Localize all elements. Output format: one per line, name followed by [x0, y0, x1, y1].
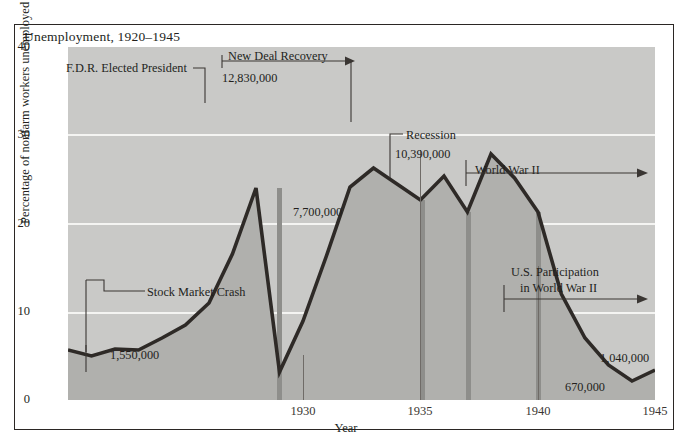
x-tick-1935: 1935: [408, 404, 433, 419]
x-tickmark-1935: [420, 150, 421, 400]
figure-title: Unemployment, 1920–1945: [24, 29, 180, 45]
annotation-new-deal-recovery: New Deal Recovery: [228, 49, 328, 64]
annotation-stock-market-crash: Stock Market Crash: [147, 285, 245, 300]
unemployment-figure: Unemployment, 1920–1945 Percentage of no…: [0, 0, 692, 446]
x-tick-1940: 1940: [526, 404, 551, 419]
value-label-12830000: 12,830,000: [222, 71, 277, 86]
y-tick-20: 20: [0, 216, 30, 231]
value-label-10390000: 10,390,000: [395, 147, 450, 162]
annotation-fdr-elected: F.D.R. Elected President: [66, 61, 187, 76]
annotation-recession: Recession: [406, 128, 456, 143]
value-label-1040000: 1,040,000: [600, 351, 649, 366]
value-label-1550000: 1,550,000: [110, 348, 159, 363]
x-tick-1945: 1945: [643, 404, 668, 419]
value-label-670000: 670,000: [565, 380, 605, 395]
y-axis-label: Percentage of nonfarm workers unemployed: [18, 2, 33, 224]
x-tickmark-1930: [303, 355, 304, 400]
y-tick-10: 10: [0, 304, 30, 319]
annotation-world-war-ii: World War II: [475, 163, 540, 178]
y-tick-30: 30: [0, 127, 30, 142]
value-label-7700000: 7,700,000: [293, 205, 342, 220]
annotation-us-participation-line2: in World War II: [520, 281, 597, 296]
y-tick-40: 40: [0, 39, 30, 54]
x-axis-label: Year: [0, 421, 692, 436]
annotation-us-participation-line1: U.S. Participation: [511, 265, 599, 280]
x-tick-1930: 1930: [291, 404, 316, 419]
y-tick-0: 0: [0, 392, 30, 407]
